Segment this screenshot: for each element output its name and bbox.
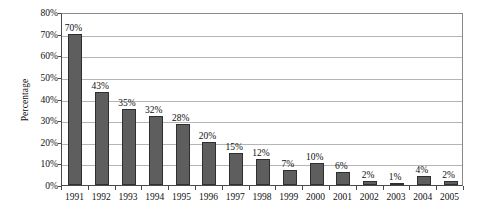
- bar: [149, 116, 163, 185]
- bar-value-label: 32%: [145, 105, 162, 115]
- bar: [95, 92, 109, 185]
- bar: [444, 181, 458, 185]
- x-tick-mark: [61, 186, 62, 190]
- x-tick-mark: [463, 186, 464, 190]
- gridline: [62, 79, 462, 80]
- bar-value-label: 2%: [362, 170, 375, 180]
- bar: [229, 153, 243, 185]
- x-tick-label: 1991: [65, 192, 84, 202]
- bar-value-label: 10%: [306, 152, 323, 162]
- x-tick-mark: [222, 186, 223, 190]
- x-tick-mark: [356, 186, 357, 190]
- y-tick-label: 0%: [45, 181, 58, 191]
- bar-chart: Percentage 0%10%20%30%40%50%60%70%80% 70…: [0, 0, 488, 220]
- y-tick-label: 20%: [41, 138, 58, 148]
- x-tick-mark: [302, 186, 303, 190]
- x-tick-label: 1995: [172, 192, 191, 202]
- y-tick-label: 40%: [41, 95, 58, 105]
- bar: [256, 159, 270, 185]
- gridline: [62, 57, 462, 58]
- x-tick-label: 1997: [226, 192, 245, 202]
- bar: [390, 183, 404, 185]
- bar: [336, 172, 350, 185]
- bar-value-label: 2%: [442, 170, 455, 180]
- bar-value-label: 35%: [118, 98, 135, 108]
- bar: [202, 142, 216, 185]
- y-axis-tick-labels: 0%10%20%30%40%50%60%70%80%: [22, 13, 58, 186]
- bar-value-label: 43%: [91, 81, 108, 91]
- x-tick-label: 2004: [413, 192, 432, 202]
- bar: [68, 34, 82, 185]
- x-tick-label: 1999: [279, 192, 298, 202]
- bar-value-label: 20%: [199, 131, 216, 141]
- bar: [310, 163, 324, 185]
- y-tick-label: 70%: [41, 30, 58, 40]
- bar-value-label: 7%: [281, 159, 294, 169]
- x-tick-label: 1993: [119, 192, 138, 202]
- x-tick-mark: [329, 186, 330, 190]
- bar-value-label: 4%: [415, 165, 428, 175]
- bar: [122, 109, 136, 185]
- x-tick-mark: [436, 186, 437, 190]
- x-tick-label: 2005: [440, 192, 459, 202]
- x-tick-label: 1998: [253, 192, 272, 202]
- x-axis-tick-labels: 1991199219931994199519961997199819992000…: [61, 192, 463, 210]
- bar-value-label: 12%: [252, 148, 269, 158]
- x-tick-label: 2001: [333, 192, 352, 202]
- x-tick-label: 2002: [360, 192, 379, 202]
- x-tick-mark: [141, 186, 142, 190]
- bar: [417, 176, 431, 185]
- x-tick-mark: [249, 186, 250, 190]
- x-axis-tick-marks: [61, 186, 463, 191]
- x-tick-mark: [409, 186, 410, 190]
- y-tick-label: 30%: [41, 116, 58, 126]
- bar-value-label: 15%: [225, 142, 242, 152]
- bar: [363, 181, 377, 185]
- y-tick-label: 80%: [41, 8, 58, 18]
- x-tick-label: 1994: [145, 192, 164, 202]
- x-tick-mark: [195, 186, 196, 190]
- bar-value-label: 28%: [172, 113, 189, 123]
- bar-value-label: 6%: [335, 161, 348, 171]
- bar-value-label: 1%: [389, 172, 402, 182]
- y-tick-label: 10%: [41, 159, 58, 169]
- plot-area: 70%43%35%32%28%20%15%12%7%10%6%2%1%4%2%: [61, 13, 463, 186]
- x-tick-mark: [168, 186, 169, 190]
- gridline: [62, 36, 462, 37]
- y-tick-label: 60%: [41, 51, 58, 61]
- x-tick-mark: [383, 186, 384, 190]
- bar: [176, 124, 190, 185]
- x-tick-label: 1996: [199, 192, 218, 202]
- x-tick-mark: [275, 186, 276, 190]
- x-tick-mark: [88, 186, 89, 190]
- x-tick-label: 1992: [92, 192, 111, 202]
- bar: [283, 170, 297, 185]
- x-tick-mark: [115, 186, 116, 190]
- bar-value-label: 70%: [65, 23, 82, 33]
- x-tick-label: 2003: [387, 192, 406, 202]
- x-tick-label: 2000: [306, 192, 325, 202]
- y-tick-label: 50%: [41, 73, 58, 83]
